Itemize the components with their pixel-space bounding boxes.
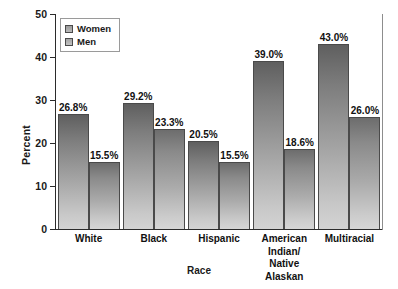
legend-label-women: Women [77,24,111,34]
bar-women: 39.0% [253,61,284,229]
bar-value-label: 29.2% [124,91,152,102]
bar-men: 26.0% [349,117,380,229]
bar-men: 15.5% [219,162,250,229]
bar-women: 20.5% [188,141,219,229]
y-tick-mark [50,100,55,101]
bar-value-label: 26.0% [351,105,379,116]
x-axis-label-line: Multiracial [317,233,382,246]
y-tick-label: 0 [41,223,47,235]
bar-value-label: 20.5% [189,129,217,140]
bar-value-label: 26.8% [59,102,87,113]
plot-right-border [382,14,383,230]
y-tick-label: 20 [35,137,47,149]
x-axis-line [55,229,383,230]
bar-chart: Percent 50 40 30 20 10 0 26.8%1 [0,0,398,289]
bar-value-label: 18.6% [286,137,314,148]
y-axis-title: Percent [20,125,32,165]
legend-swatch-women-icon [65,25,73,33]
y-tick-label: 10 [35,180,47,192]
y-tick-label: 50 [35,8,47,20]
y-tick-label: 30 [35,94,47,106]
y-tick-mark [50,14,55,15]
bar-value-label: 43.0% [320,32,348,43]
chart-title-cutoff [0,0,398,1]
bar-men: 18.6% [284,149,315,229]
bar-men: 15.5% [89,162,120,229]
legend-item-women: Women [65,22,115,35]
x-axis-label-line: American Indian/ [252,233,317,258]
bar-group: 43.0%26.0% [317,14,382,229]
bar-group: 20.5%15.5% [186,14,251,229]
legend-label-men: Men [77,37,96,47]
bar-value-label: 39.0% [255,49,283,60]
bar-group: 29.2%23.3% [121,14,186,229]
x-axis-label-line: Black [121,233,186,246]
bar-women: 26.8% [58,114,89,229]
y-tick-mark [50,186,55,187]
legend-item-men: Men [65,35,115,48]
bar-group: 39.0%18.6% [252,14,317,229]
chart-legend: Women Men [60,18,120,52]
legend-swatch-men-icon [65,38,73,46]
y-tick-mark [50,57,55,58]
bar-men: 23.3% [154,129,185,229]
bar-value-label: 15.5% [220,150,248,161]
y-tick-mark [50,143,55,144]
bar-women: 29.2% [123,103,154,229]
y-tick-label: 40 [35,51,47,63]
x-axis-label-line: Hispanic [186,233,251,246]
x-axis-title: Race [0,265,398,276]
y-tick-mark [50,229,55,230]
bar-value-label: 15.5% [90,150,118,161]
bar-value-label: 23.3% [155,117,183,128]
bar-women: 43.0% [318,44,349,229]
x-axis-label-line: White [56,233,121,246]
